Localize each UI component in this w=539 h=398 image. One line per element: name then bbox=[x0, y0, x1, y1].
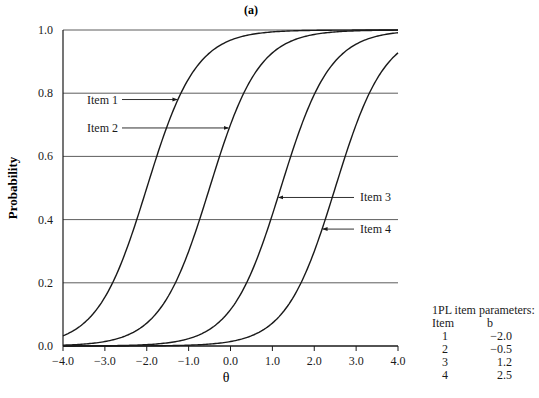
parameters-table: 1PL item parameters: Item b 1 −2.0 2 −0.… bbox=[432, 304, 535, 382]
item-number: 1 bbox=[432, 330, 472, 343]
x-tick-label: 4.0 bbox=[391, 354, 406, 368]
x-tick-label: 2.0 bbox=[307, 354, 322, 368]
y-tick-label: 0.6 bbox=[38, 149, 53, 163]
y-axis-ticks: 0.00.20.40.60.81.0 bbox=[38, 23, 53, 353]
item-label: Item 1 bbox=[87, 93, 118, 107]
x-tick-label: −3.0 bbox=[94, 354, 116, 368]
y-tick-label: 0.8 bbox=[38, 86, 53, 100]
x-tick-label: 1.0 bbox=[265, 354, 280, 368]
y-tick-label: 0.0 bbox=[38, 339, 53, 353]
y-axis-label: Probability bbox=[5, 156, 20, 219]
chart-title: (a) bbox=[244, 3, 258, 17]
x-tick-label: 0.0 bbox=[223, 354, 238, 368]
x-tick-label: −1.0 bbox=[178, 354, 200, 368]
x-tick-label: 3.0 bbox=[349, 354, 364, 368]
x-axis-label: θ bbox=[223, 370, 230, 385]
item-number: 2 bbox=[432, 343, 472, 356]
x-tick-label: −2.0 bbox=[136, 354, 158, 368]
curves bbox=[63, 30, 398, 346]
x-tick-label: −4.0 bbox=[52, 354, 74, 368]
y-tick-label: 0.2 bbox=[38, 276, 53, 290]
icc-curve bbox=[63, 30, 398, 345]
x-axis-ticks: −4.0−3.0−2.0−1.00.01.02.03.04.0 bbox=[52, 346, 405, 368]
axes bbox=[63, 30, 398, 346]
grid-lines bbox=[63, 30, 398, 283]
item-number: 4 bbox=[432, 369, 472, 382]
y-tick-label: 0.4 bbox=[38, 213, 53, 227]
icc-curve bbox=[63, 33, 398, 346]
item-label: Item 2 bbox=[87, 121, 118, 135]
item-labels: Item 1Item 2Item 3Item 4 bbox=[87, 93, 391, 237]
icc-curve bbox=[63, 30, 398, 336]
item-label: Item 3 bbox=[360, 190, 391, 204]
item-label: Item 4 bbox=[360, 222, 391, 236]
y-tick-label: 1.0 bbox=[38, 23, 53, 37]
table-row: 4 2.5 bbox=[432, 369, 535, 382]
header-item: Item bbox=[432, 317, 472, 330]
item-number: 3 bbox=[432, 356, 472, 369]
b-value: 2.5 bbox=[472, 369, 512, 382]
